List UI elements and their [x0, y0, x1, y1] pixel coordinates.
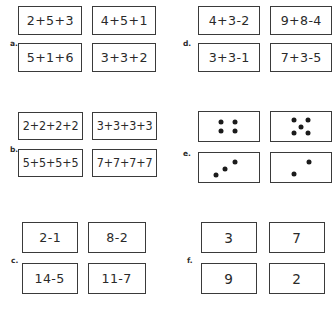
card-a-3[interactable]: 5+1+6 [18, 43, 82, 72]
card-b-4-text: 7+7+7+7 [97, 156, 153, 170]
card-d-3[interactable]: 3+3-1 [198, 43, 260, 72]
group-c: c. 2-1 8-2 14-5 11-7 [0, 212, 167, 312]
card-b-2-text: 3+3+3+3 [97, 119, 153, 133]
group-f-card-grid: 3 7 9 2 [201, 222, 325, 294]
card-d-4-text: 7+3-5 [280, 50, 321, 65]
card-a-1-text: 2+5+3 [26, 13, 73, 28]
card-c-2[interactable]: 8-2 [88, 222, 146, 253]
group-label-a: a. [10, 40, 18, 48]
card-a-3-text: 5+1+6 [26, 50, 73, 65]
card-d-1-text: 4+3-2 [208, 13, 249, 28]
card-a-2-text: 4+5+1 [100, 13, 147, 28]
card-c-4[interactable]: 11-7 [88, 263, 146, 294]
group-d-card-grid: 4+3-2 9+8-4 3+3-1 7+3-5 [198, 6, 332, 72]
card-b-3-text: 5+5+5+5 [23, 156, 79, 170]
group-b: b. 2+2+2+2 3+3+3+3 5+5+5+5 7+7+7+7 [0, 105, 167, 201]
card-f-3-text: 9 [224, 271, 233, 287]
card-b-1-text: 2+2+2+2 [23, 119, 79, 133]
card-e-1[interactable] [198, 111, 260, 142]
card-f-2-text: 7 [292, 230, 301, 246]
group-label-c: c. [11, 257, 18, 265]
dot-pattern-five-icon [271, 112, 331, 141]
card-d-1[interactable]: 4+3-2 [198, 6, 260, 35]
card-c-3-text: 14-5 [35, 271, 65, 286]
card-a-4[interactable]: 3+3+2 [92, 43, 156, 72]
card-c-4-text: 11-7 [102, 271, 132, 286]
card-b-2[interactable]: 3+3+3+3 [92, 112, 157, 140]
card-a-4-text: 3+3+2 [100, 50, 147, 65]
card-f-4[interactable]: 2 [269, 263, 325, 294]
group-d: d. 4+3-2 9+8-4 3+3-1 7+3-5 [167, 0, 334, 96]
card-c-1-text: 2-1 [39, 230, 61, 245]
dot-pattern-three-icon [199, 153, 259, 182]
group-label-b: b. [10, 146, 18, 154]
dot-pattern-two-icon [271, 153, 331, 182]
card-e-2[interactable] [270, 111, 332, 142]
card-d-2-text: 9+8-4 [280, 13, 321, 28]
card-b-1[interactable]: 2+2+2+2 [18, 112, 83, 140]
group-c-card-grid: 2-1 8-2 14-5 11-7 [22, 222, 146, 294]
group-a-card-grid: 2+5+3 4+5+1 5+1+6 3+3+2 [18, 6, 156, 72]
card-b-3[interactable]: 5+5+5+5 [18, 149, 83, 177]
card-d-4[interactable]: 7+3-5 [270, 43, 332, 72]
card-d-2[interactable]: 9+8-4 [270, 6, 332, 35]
card-f-1[interactable]: 3 [201, 222, 257, 253]
group-a: a. 2+5+3 4+5+1 5+1+6 3+3+2 [0, 0, 167, 96]
group-f: f. 3 7 9 2 [167, 212, 334, 312]
group-b-card-grid: 2+2+2+2 3+3+3+3 5+5+5+5 7+7+7+7 [18, 112, 157, 177]
card-f-3[interactable]: 9 [201, 263, 257, 294]
card-e-4[interactable] [270, 152, 332, 183]
card-e-3[interactable] [198, 152, 260, 183]
card-c-2-text: 8-2 [106, 230, 128, 245]
card-b-4[interactable]: 7+7+7+7 [92, 149, 157, 177]
dot-pattern-four-icon [199, 112, 259, 141]
card-c-3[interactable]: 14-5 [22, 263, 78, 294]
worksheet-page: a. 2+5+3 4+5+1 5+1+6 3+3+2 b. 2+2+2+2 3+… [0, 0, 334, 326]
group-e-card-grid [198, 111, 332, 183]
card-a-2[interactable]: 4+5+1 [92, 6, 156, 35]
card-c-1[interactable]: 2-1 [22, 222, 78, 253]
group-label-e: e. [183, 150, 191, 158]
card-f-2[interactable]: 7 [269, 222, 325, 253]
card-a-1[interactable]: 2+5+3 [18, 6, 82, 35]
group-label-f: f. [187, 257, 193, 265]
card-f-4-text: 2 [292, 271, 301, 287]
group-e: e. [167, 105, 334, 201]
card-f-1-text: 3 [224, 230, 233, 246]
group-label-d: d. [183, 40, 191, 48]
card-d-3-text: 3+3-1 [208, 50, 249, 65]
